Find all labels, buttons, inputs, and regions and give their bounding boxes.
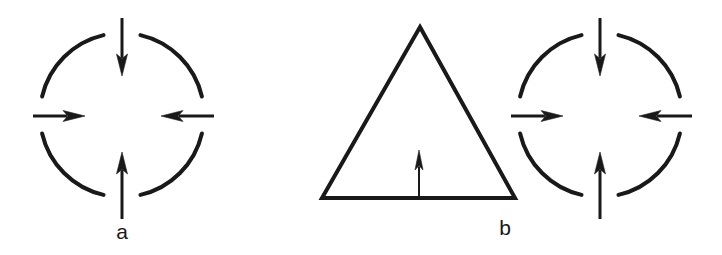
figure-drawing-canvas <box>0 0 722 255</box>
panel-b-caption: b <box>485 217 525 238</box>
figure-container: a b <box>0 0 722 255</box>
panel-a-caption: a <box>102 221 142 242</box>
